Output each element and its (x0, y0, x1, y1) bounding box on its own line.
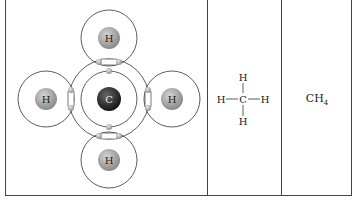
svg-text:H: H (239, 116, 248, 127)
structural-formula: H C H H H (217, 72, 270, 127)
molecular-formula: CH4 (282, 92, 352, 107)
svg-text:C: C (239, 94, 247, 105)
c-label: C (105, 94, 113, 105)
svg-text:H: H (261, 94, 270, 105)
h-label-top: H (105, 33, 114, 44)
svg-text:H: H (217, 94, 226, 105)
svg-text:H: H (239, 72, 248, 83)
h-label-right: H (168, 94, 177, 105)
h-label-left: H (42, 94, 51, 105)
h-label-bottom: H (105, 155, 114, 166)
